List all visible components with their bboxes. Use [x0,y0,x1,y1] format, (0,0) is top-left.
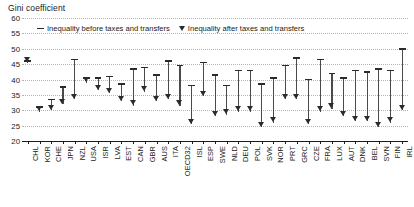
after-tax-triangle-marker [188,119,194,124]
x-axis-tick-label: LUX [335,146,344,161]
after-tax-triangle-marker [71,94,77,99]
after-tax-triangle-marker [399,105,405,110]
after-tax-triangle-marker [247,106,253,111]
y-axis-tick-label: 55 [2,29,20,38]
x-axis-tick-mark [262,141,263,144]
x-axis-tick-mark [238,141,239,144]
after-tax-triangle-marker [270,117,276,122]
before-tax-bar-marker [258,83,265,85]
before-tax-bar-marker [235,70,242,72]
x-axis-tick-mark [28,141,29,144]
x-axis-tick-mark [215,141,216,144]
before-tax-bar-marker [60,86,67,88]
y-axis-tick-label: 25 [2,121,20,130]
x-axis-tick-label: SVN [382,146,391,162]
x-axis-tick-label: NZL [78,146,87,160]
after-tax-triangle-marker [282,94,288,99]
x-axis-tick-mark [332,141,333,144]
before-tax-bar-marker [177,65,184,67]
x-axis-tick-label: PRT [288,146,297,161]
x-axis-tick-label: CHL [31,146,40,161]
after-tax-triangle-marker [141,86,147,91]
before-tax-bar-marker [399,48,406,50]
x-axis-tick-label: FRA [323,146,332,161]
x-axis-tick-label: AUT [347,146,356,161]
before-tax-bar-marker [95,77,102,79]
marker-stem [261,84,262,127]
x-axis-tick-label: ISL [195,146,204,157]
gridline [22,64,408,65]
before-tax-bar-marker [352,70,359,72]
after-tax-triangle-marker [83,77,89,82]
after-tax-triangle-marker [293,94,299,99]
before-tax-bar-marker [375,68,382,70]
x-axis-tick-label: OECD32 [183,146,192,176]
marker-stem [308,80,309,125]
after-tax-triangle-marker [375,122,381,127]
before-tax-bar-marker [329,73,336,75]
x-axis-tick-mark [309,141,310,144]
after-tax-triangle-marker [176,100,182,105]
before-tax-bar-marker [118,83,125,85]
x-axis-tick-label: ESP [206,146,215,161]
before-tax-bar-marker [71,59,78,61]
legend-label-before: Inequality before taxes and transfers [47,24,170,33]
x-axis-tick-label: JPN [66,146,75,160]
before-tax-bar-marker [270,77,277,79]
x-axis-tick-mark [133,141,134,144]
after-tax-triangle-marker [212,111,218,116]
y-axis-tick-label: 30 [2,106,20,115]
after-tax-triangle-marker [258,122,264,127]
before-tax-bar-marker [247,70,254,72]
after-tax-triangle-marker [48,105,54,110]
x-axis-tick-label: AUS [160,146,169,162]
gridline [22,18,408,19]
legend-item-after[interactable]: Inequality after taxes and transfers [179,24,305,33]
x-axis-tick-mark [98,141,99,144]
x-axis-tick-label: FIN [393,146,402,158]
after-tax-triangle-marker [223,109,229,114]
before-tax-bar-marker [153,74,160,76]
x-axis-tick-mark [145,141,146,144]
after-tax-triangle-marker [364,116,370,121]
x-axis-tick-label: IRL [405,146,414,158]
marker-stem [378,69,379,127]
y-axis-tick-labels: 605550454035302520 [0,18,20,141]
x-axis-tick-mark [297,141,298,144]
x-axis-tick-mark [110,141,111,144]
x-axis-tick-mark [75,141,76,144]
y-axis-tick-label: 40 [2,75,20,84]
before-tax-bar-marker [340,77,347,79]
x-axis-tick-label: GRC [300,146,309,163]
marker-stem [390,70,391,122]
before-tax-bar-marker [165,60,172,62]
after-tax-triangle-marker [387,117,393,122]
marker-stem [355,70,356,121]
x-axis-tick-mark [192,141,193,144]
x-axis-tick-label: DNK [358,146,367,162]
x-axis-tick-label: BEL [370,146,379,160]
x-axis-tick-mark [402,141,403,144]
after-tax-triangle-marker [200,91,206,96]
after-tax-triangle-marker [36,106,42,111]
y-axis-tick-label: 45 [2,60,20,69]
after-tax-triangle-marker [118,96,124,101]
x-axis-tick-mark [180,141,181,144]
y-axis-tick-label: 60 [2,14,20,23]
x-axis-tick-label: ISR [101,146,110,159]
x-axis-tick-label: NLD [230,146,239,161]
x-axis-tick-mark [157,141,158,144]
x-axis-tick-mark [121,141,122,144]
triangle-down-marker-icon [179,26,185,31]
x-axis-tick-label: LVA [113,146,122,159]
before-tax-bar-marker [223,85,230,87]
x-axis-tick-mark [379,141,380,144]
x-axis-tick-mark [86,141,87,144]
x-axis-tick-label: CHE [54,146,63,162]
before-tax-bar-marker [212,74,219,76]
legend-item-before[interactable]: Inequality before taxes and transfers [37,24,170,33]
x-axis-tick-label: KOR [43,146,52,162]
x-axis-tick-label: ITA [171,146,180,157]
before-tax-bar-marker [141,67,148,69]
